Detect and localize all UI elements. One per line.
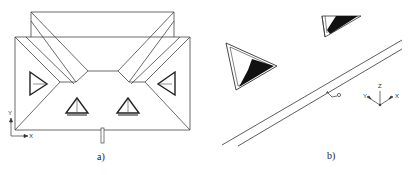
skylight-left <box>30 72 47 95</box>
axis-triad-xy <box>10 118 29 138</box>
axis-label-y: Y <box>363 93 367 99</box>
panel-b-perspective-view: Z Y X b) <box>206 0 412 175</box>
caption-a: a) <box>97 151 105 162</box>
skylight-top-partial <box>322 16 361 37</box>
panel-a-plan-view: Y X a) <box>0 0 206 175</box>
axis-label-x: X <box>29 133 33 139</box>
pipe-detail <box>326 91 341 97</box>
skylight-right <box>158 72 175 95</box>
upper-block-outline <box>31 12 174 37</box>
pipe-element <box>101 128 104 143</box>
axis-label-z: Z <box>378 83 382 89</box>
axis-label-x: X <box>395 93 399 99</box>
roof-plan-drawing <box>0 0 206 175</box>
building-outline <box>15 37 190 130</box>
axis-label-y: Y <box>8 110 12 116</box>
caption-b: b) <box>327 150 335 161</box>
axis-triad-xyz <box>367 91 393 106</box>
skylight-large <box>226 43 277 90</box>
